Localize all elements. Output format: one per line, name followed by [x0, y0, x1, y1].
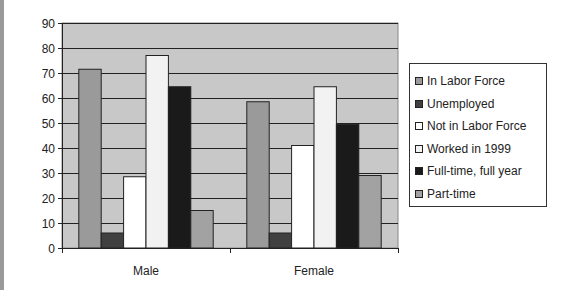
- legend-item: Not in Labor Force: [410, 115, 546, 138]
- legend-swatch-icon: [415, 145, 423, 153]
- legend-label: Worked in 1999: [427, 142, 511, 156]
- legend-swatch-icon: [415, 122, 423, 130]
- bar: [359, 176, 381, 249]
- legend-swatch-icon: [415, 190, 423, 198]
- legend-swatch-icon: [415, 100, 423, 108]
- legend-swatch-icon: [415, 77, 423, 85]
- legend-item: Unemployed: [410, 93, 546, 116]
- x-axis: MaleFemale: [62, 248, 399, 278]
- y-tick-label: 20: [42, 192, 56, 206]
- legend-item: Full-time, full year: [410, 160, 546, 183]
- y-tick-label: 60: [42, 92, 56, 106]
- y-tick-label: 50: [42, 117, 56, 131]
- legend-label: Unemployed: [427, 97, 494, 111]
- legend-item: Worked in 1999: [410, 138, 546, 161]
- y-tick-label: 90: [42, 17, 56, 31]
- y-tick-label: 40: [42, 142, 56, 156]
- bar: [336, 124, 358, 248]
- x-category-label: Male: [133, 264, 159, 278]
- legend-item: Part-time: [410, 183, 546, 206]
- y-tick-label: 70: [42, 67, 56, 81]
- legend-label: In Labor Force: [427, 74, 505, 88]
- y-tick-label: 10: [42, 217, 56, 231]
- legend-item: In Labor Force: [410, 70, 546, 93]
- plot-area: [62, 23, 398, 248]
- bar: [101, 233, 123, 248]
- chart-legend: In Labor ForceUnemployedNot in Labor For…: [409, 63, 547, 207]
- bar: [314, 87, 336, 248]
- bar: [269, 233, 291, 248]
- y-tick-label: 30: [42, 167, 56, 181]
- legend-label: Full-time, full year: [427, 164, 522, 178]
- legend-label: Not in Labor Force: [427, 119, 526, 133]
- y-tick-label: 80: [42, 42, 56, 56]
- y-axis: 0102030405060708090: [42, 17, 63, 256]
- bar: [292, 146, 314, 249]
- bar: [247, 102, 269, 248]
- bar: [168, 87, 190, 248]
- bar: [191, 211, 213, 249]
- y-tick-label: 0: [48, 242, 55, 256]
- bar: [124, 177, 146, 248]
- bar: [146, 56, 168, 249]
- x-category-label: Female: [294, 264, 334, 278]
- legend-swatch-icon: [415, 167, 423, 175]
- bar: [79, 69, 101, 248]
- legend-label: Part-time: [427, 187, 476, 201]
